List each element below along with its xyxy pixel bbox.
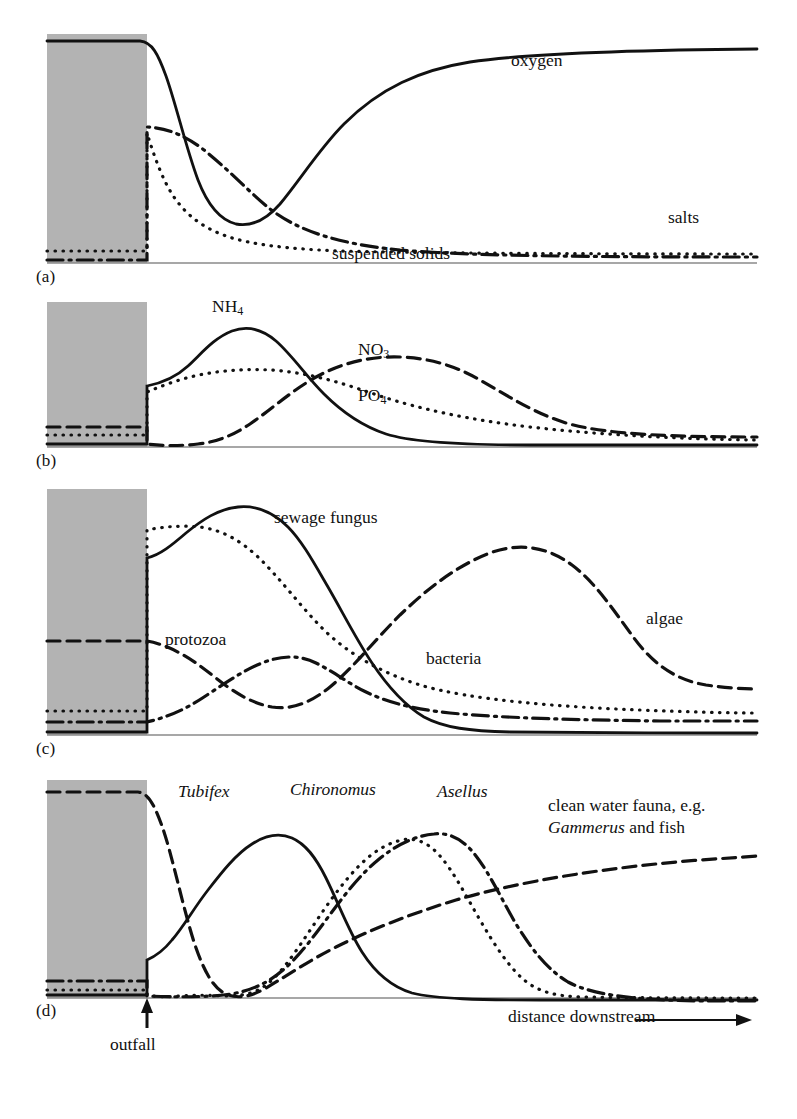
panel-a: oxygen salts suspended solids (a) xyxy=(0,28,797,278)
curve-salts xyxy=(47,127,757,260)
x-axis-label: distance downstream xyxy=(508,1006,655,1027)
curve-label-sewage-fungus: sewage fungus xyxy=(274,507,378,528)
clean-water-fauna-line2: Gammerus and fish xyxy=(548,817,705,839)
curve-label-chironomus: Chironomus xyxy=(290,779,376,800)
panel-b-plot xyxy=(0,296,797,468)
clean-water-fauna-line1: clean water fauna, e.g. xyxy=(548,795,705,817)
curve-label-salts: salts xyxy=(668,207,699,228)
curve-protozoa xyxy=(47,657,757,722)
curve-label-phosphate: PO4 xyxy=(358,385,386,407)
curve-label-algae: algae xyxy=(646,608,683,629)
shaded-upstream-region xyxy=(47,780,147,998)
ammonium-formula-subscript: 4 xyxy=(237,304,243,318)
curve-label-ammonium: NH4 xyxy=(212,296,243,318)
shaded-upstream-region xyxy=(47,489,147,735)
panel-letter-c: (c) xyxy=(36,739,55,759)
panel-c: sewage fungus protozoa algae bacteria (c… xyxy=(0,483,797,753)
shaded-upstream-region xyxy=(47,302,147,447)
panel-a-plot xyxy=(0,28,797,278)
curve-label-protozoa: protozoa xyxy=(165,629,226,650)
curve-label-tubifex: Tubifex xyxy=(178,781,230,802)
curve-label-clean-water-fauna: clean water fauna, e.g. Gammerus and fis… xyxy=(548,795,705,839)
curve-label-bacteria: bacteria xyxy=(426,648,481,669)
curve-nitrate xyxy=(47,357,757,446)
clean-water-fauna-line2-rest: and fish xyxy=(625,817,685,837)
outfall-arrow-icon xyxy=(141,998,153,1028)
curve-oxygen xyxy=(47,41,757,225)
curve-label-asellus: Asellus xyxy=(437,781,488,802)
ammonium-formula-base: NH xyxy=(212,296,237,316)
panel-letter-a: (a) xyxy=(36,267,55,287)
curve-suspended-solids xyxy=(47,133,757,254)
nitrate-formula-subscript: 3 xyxy=(383,347,389,361)
shaded-upstream-region xyxy=(47,34,147,263)
curve-label-oxygen: oxygen xyxy=(511,50,563,71)
figure-river-pollution-downstream: oxygen salts suspended solids (a) NH4 NO… xyxy=(0,0,797,1119)
panel-d: Tubifex Chironomus Asellus clean water f… xyxy=(0,774,797,1034)
curve-phosphate xyxy=(47,370,757,440)
phosphate-formula-base: PO xyxy=(358,385,380,405)
panel-b: NH4 NO3 PO4 (b) xyxy=(0,296,797,468)
nitrate-formula-base: NO xyxy=(358,339,383,359)
curve-ammonium xyxy=(47,328,757,445)
phosphate-formula-subscript: 4 xyxy=(380,393,386,407)
curve-label-nitrate: NO3 xyxy=(358,339,389,361)
panel-letter-d: (d) xyxy=(36,1001,56,1021)
curve-label-suspended-solids: suspended solids xyxy=(332,243,450,264)
outfall-label: outfall xyxy=(110,1034,156,1055)
gammerus-genus-name: Gammerus xyxy=(548,817,625,837)
panel-letter-b: (b) xyxy=(36,451,56,471)
